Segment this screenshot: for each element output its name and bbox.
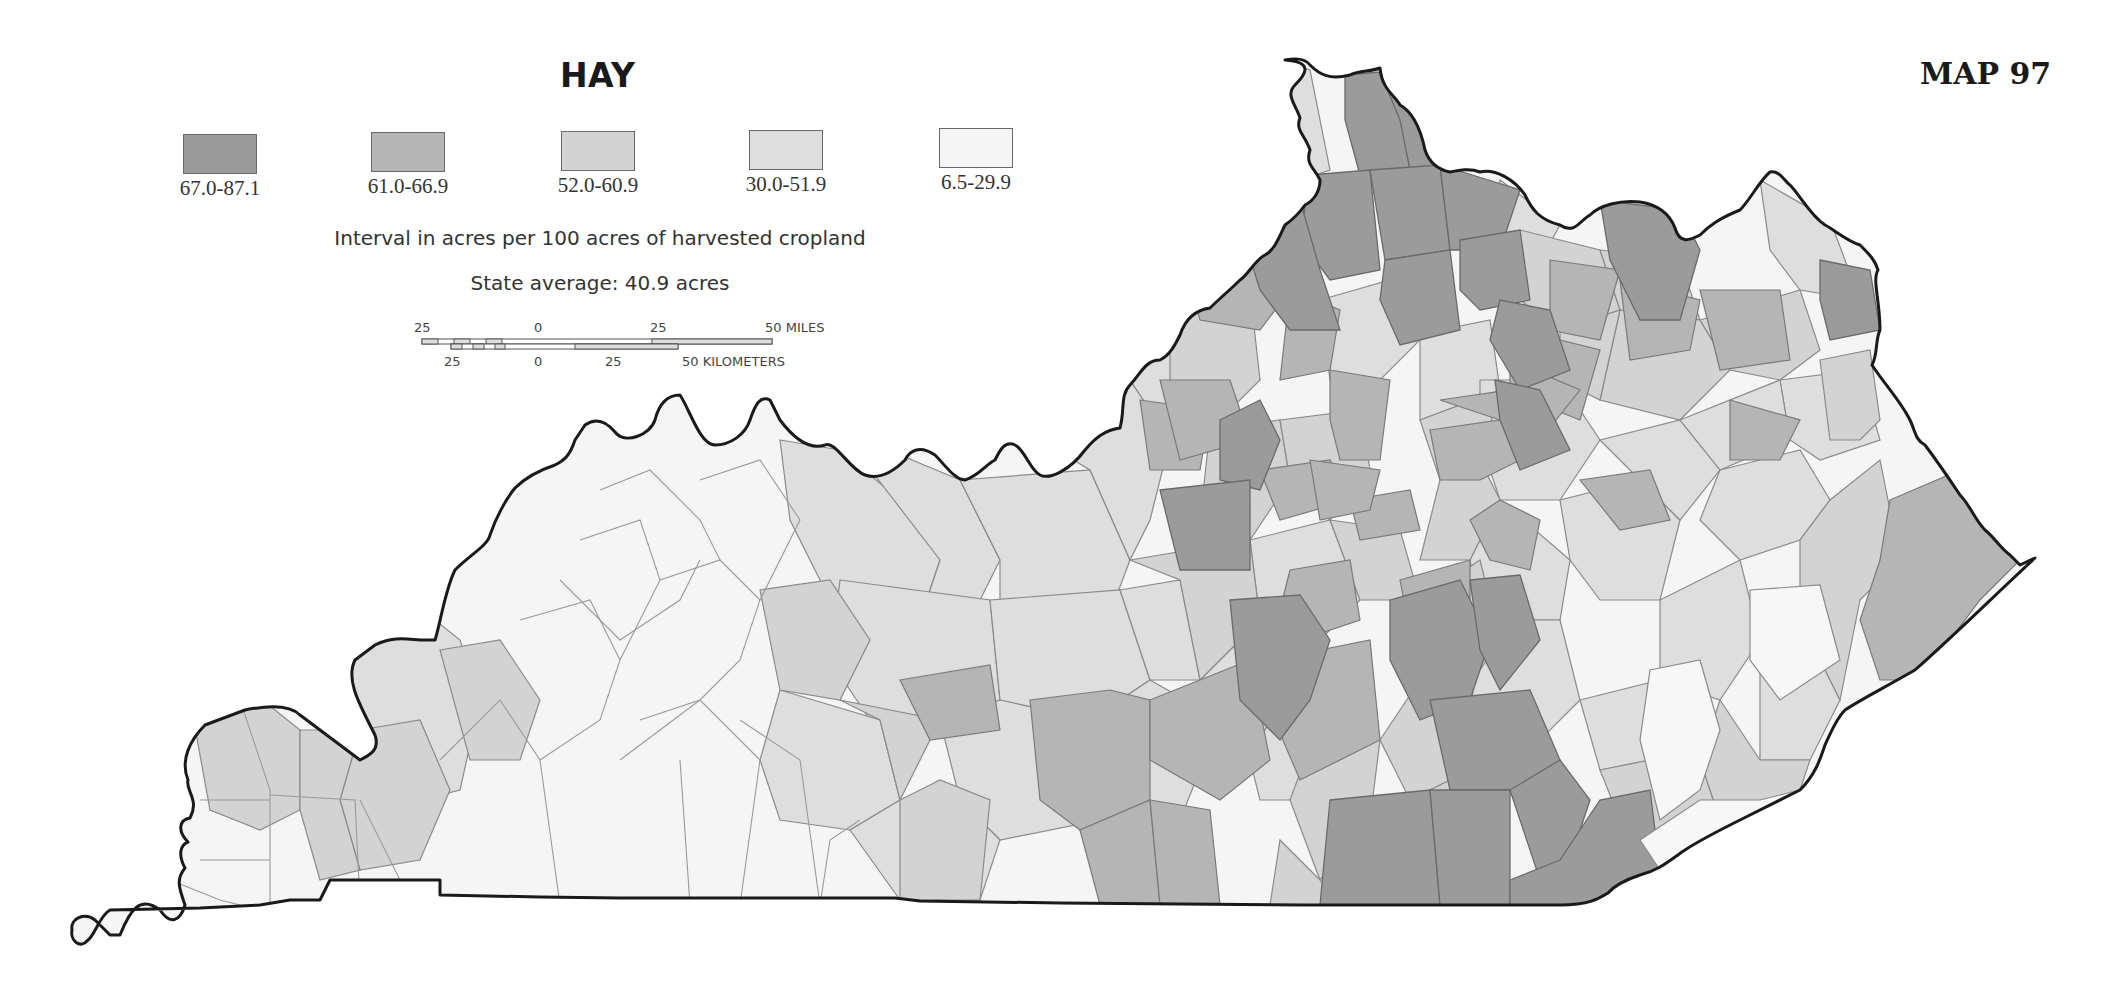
county-fills [0,0,2123,1005]
kentucky-choropleth-map [0,0,2123,1005]
